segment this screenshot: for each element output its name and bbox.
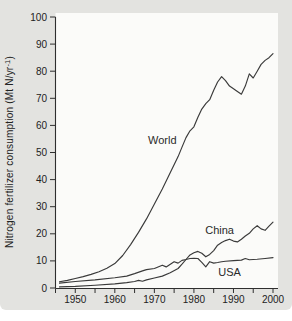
x-tick-label: 2000 — [262, 294, 285, 305]
y-tick-label: 40 — [36, 174, 48, 185]
figure-page: 0102030405060708090100195019601970198019… — [0, 0, 292, 321]
x-tick-label: 1970 — [143, 294, 166, 305]
series-label-china: China — [205, 224, 235, 236]
y-axis-title-close: ) — [4, 56, 15, 60]
y-tick-label: 80 — [36, 66, 48, 77]
y-tick-label: 30 — [36, 201, 48, 212]
x-tick-label: 1990 — [222, 294, 245, 305]
y-tick-label: 50 — [36, 147, 48, 158]
x-tick-label: 1980 — [183, 294, 206, 305]
series-label-world: World — [148, 134, 177, 146]
y-axis-title-superscript: -1 — [3, 60, 12, 67]
x-tick-label: 1960 — [104, 294, 127, 305]
y-tick-label: 60 — [36, 120, 48, 131]
y-tick-label: 100 — [30, 12, 47, 23]
series-label-usa: USA — [218, 266, 241, 278]
y-tick-label: 20 — [36, 228, 48, 239]
x-tick-label: 1950 — [64, 294, 87, 305]
y-tick-label: 10 — [36, 255, 48, 266]
nitrogen-fertilizer-consumption-chart: 0102030405060708090100195019601970198019… — [0, 0, 292, 321]
plot-area — [56, 13, 279, 288]
y-tick-label: 70 — [36, 93, 48, 104]
y-tick-label: 0 — [41, 283, 47, 294]
y-axis-title: Nitrogen fertilizer consumption (Mt N/yr… — [3, 56, 16, 248]
y-tick-label: 90 — [36, 39, 48, 50]
y-axis-title-main: Nitrogen fertilizer consumption (Mt N/yr — [4, 66, 15, 248]
